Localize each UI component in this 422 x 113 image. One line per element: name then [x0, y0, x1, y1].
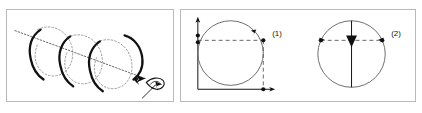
sketch-marker-icon — [142, 78, 164, 98]
circle-one-dot-axis-upper — [196, 33, 200, 37]
circle-one-dot-right — [261, 38, 265, 42]
helix-front-arcs — [30, 30, 143, 92]
helix-axis — [15, 31, 145, 83]
circle-one-group: (1) — [195, 17, 282, 92]
circles-drawing: (1) (2) — [181, 10, 415, 101]
circle-two-dot-center — [349, 36, 354, 41]
circle-two-dot-left — [319, 38, 323, 42]
circle-one-label: (1) — [272, 29, 282, 38]
helix-drawing — [7, 10, 173, 101]
figure-root: (1) (2) — [0, 0, 422, 113]
circle-one-arc-arrowhead — [251, 30, 256, 37]
circle-two-dot-right — [380, 38, 384, 42]
circle-one-dot-bottom — [261, 87, 265, 91]
circle-two-label: (2) — [391, 29, 401, 38]
circle-two-group: (2) — [318, 21, 401, 88]
helix-back-arcs — [35, 27, 132, 89]
circles-panel: (1) (2) — [180, 9, 416, 102]
circle-one-dot-axis-lower — [196, 40, 200, 44]
helix-panel — [6, 9, 174, 102]
